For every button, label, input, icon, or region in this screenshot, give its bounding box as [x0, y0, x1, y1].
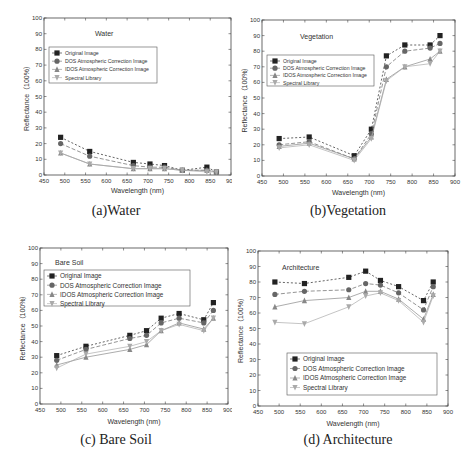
data-point-marker — [211, 308, 216, 313]
y-tick-label: 100 — [250, 17, 261, 23]
y-tick-label: 10 — [31, 385, 38, 391]
data-point-marker — [384, 53, 389, 58]
y-tick-label: 50 — [31, 323, 38, 329]
series-triangle-up — [272, 288, 436, 322]
y-tick-label: 30 — [253, 126, 260, 132]
x-axis-label: Wavelength (nm) — [332, 189, 385, 197]
x-tick-label: 500 — [274, 409, 285, 415]
y-tick-label: 100 — [246, 248, 257, 254]
legend-entry: DOS Atmospheric Correction Image — [303, 365, 405, 373]
y-tick-label: 10 — [249, 388, 256, 394]
legend-entry: IDOS Atmospheric Correction Image — [65, 66, 149, 72]
x-tick-label: 750 — [160, 407, 171, 413]
series-circle — [54, 308, 216, 363]
chart-panel-water: 0102030405060708090100450500550600650700… — [0, 0, 232, 232]
y-tick-label: 20 — [249, 372, 256, 378]
legend-entry: Original Image — [303, 355, 345, 363]
data-point-marker — [159, 316, 164, 321]
chart-water: 0102030405060708090100450500550600650700… — [0, 0, 232, 200]
x-tick-label: 500 — [60, 178, 71, 184]
chart-title: Vegetation — [300, 33, 333, 41]
x-tick-label: 550 — [81, 178, 92, 184]
x-tick-label: 650 — [337, 409, 348, 415]
x-tick-label: 700 — [139, 407, 150, 413]
chart-architecture: 0102030405060708090100450500550600650700… — [232, 232, 464, 432]
chart-panel-vegetation: 0102030405060708090100450500550600650700… — [232, 0, 464, 232]
series-line — [275, 271, 433, 300]
legend-entry: Original Image — [65, 50, 99, 56]
x-tick-label: 800 — [181, 407, 192, 413]
x-tick-label: 550 — [295, 409, 306, 415]
data-point-marker — [177, 311, 182, 316]
x-tick-label: 650 — [119, 407, 130, 413]
data-point-marker — [58, 141, 63, 146]
x-tick-label: 850 — [429, 179, 440, 185]
x-tick-label: 600 — [321, 179, 332, 185]
legend: Original ImageDOS Atmospheric Correction… — [49, 47, 157, 83]
y-tick-label: 80 — [249, 279, 256, 285]
y-tick-label: 70 — [253, 64, 260, 70]
data-point-marker — [346, 275, 351, 280]
legend-entry: Spectral Library — [283, 80, 320, 86]
series-line — [61, 137, 217, 172]
y-tick-label: 10 — [35, 156, 42, 162]
data-point-marker — [87, 154, 92, 159]
y-tick-label: 40 — [35, 109, 42, 115]
legend-entry: Spectral Library — [303, 384, 349, 392]
chart-vegetation: 0102030405060708090100450500550600650700… — [232, 0, 464, 200]
legend-entry: DOS Atmospheric Correction Image — [283, 65, 366, 71]
data-point-marker — [58, 135, 63, 140]
data-point-marker — [384, 64, 389, 69]
legend: Original ImageDOS Atmospheric Correction… — [287, 353, 437, 395]
data-point-marker — [396, 290, 401, 295]
data-point-marker — [437, 33, 442, 38]
x-tick-label: 500 — [278, 179, 289, 185]
x-tick-label: 600 — [101, 178, 112, 184]
legend-entry: Original Image — [60, 272, 102, 280]
data-point-marker — [428, 56, 433, 62]
x-tick-label: 600 — [316, 409, 327, 415]
data-point-marker — [159, 320, 164, 325]
chart-caption-bare-soil: (c) Bare Soil — [0, 432, 232, 448]
y-tick-label: 40 — [31, 339, 38, 345]
y-tick-label: 40 — [249, 341, 256, 347]
y-tick-label: 100 — [28, 245, 39, 251]
x-tick-label: 650 — [122, 178, 133, 184]
y-tick-label: 60 — [253, 79, 260, 85]
data-point-marker — [363, 293, 368, 299]
chart-title: Architecture — [282, 264, 319, 271]
y-axis-label: Reflectance（100%） — [241, 64, 248, 133]
data-point-marker — [346, 287, 351, 292]
series-line — [61, 144, 217, 172]
series-square — [277, 33, 443, 158]
chart-title: Bare Soil — [55, 259, 84, 266]
legend-entry: Original Image — [283, 58, 317, 64]
y-tick-label: 40 — [253, 111, 260, 117]
series-line — [279, 36, 440, 156]
x-tick-label: 450 — [35, 407, 46, 413]
y-tick-label: 50 — [249, 326, 256, 332]
data-point-marker — [302, 321, 307, 327]
data-point-marker — [431, 279, 436, 284]
data-point-marker — [54, 353, 59, 358]
x-tick-label: 500 — [56, 407, 67, 413]
data-point-marker — [302, 289, 307, 294]
x-tick-label: 800 — [401, 409, 412, 415]
y-tick-label: 20 — [253, 142, 260, 148]
y-axis: 0102030405060708090100 — [28, 245, 228, 407]
data-point-marker — [421, 307, 426, 312]
data-point-marker — [421, 320, 426, 326]
y-tick-label: 30 — [35, 125, 42, 131]
x-tick-label: 650 — [343, 179, 354, 185]
data-point-marker — [437, 41, 442, 46]
series-square — [54, 300, 216, 358]
legend-entry: DOS Atmospheric Correction Image — [65, 58, 148, 64]
series-line — [275, 293, 433, 324]
y-tick-label: 80 — [35, 46, 42, 52]
x-tick-label: 900 — [450, 179, 461, 185]
x-tick-label: 750 — [164, 178, 175, 184]
x-tick-label: 450 — [257, 179, 268, 185]
data-point-marker — [421, 298, 426, 303]
data-point-marker — [363, 269, 368, 274]
chart-panel-architecture: 0102030405060708090100450500550600650700… — [232, 232, 464, 464]
